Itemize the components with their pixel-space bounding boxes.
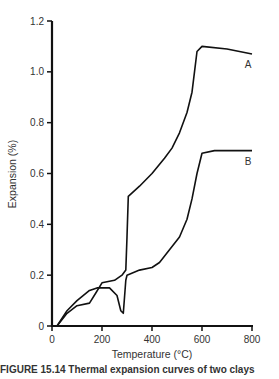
y-tick-label: 1.0 [30, 66, 44, 77]
x-axis: 0200400600800 [49, 326, 261, 345]
y-axis: 00.20.40.60.81.01.2 [30, 16, 52, 332]
x-tick-label: 600 [194, 334, 211, 345]
y-tick-label: 1.2 [30, 16, 44, 27]
x-tick-label: 0 [49, 334, 55, 345]
series-group: AB [57, 46, 252, 326]
y-tick-label: 0 [38, 321, 44, 332]
series-label-b: B [245, 156, 252, 167]
y-tick-label: 0.8 [30, 117, 44, 128]
x-axis-label: Temperature (°C) [112, 348, 193, 360]
x-tick-label: 800 [244, 334, 261, 345]
y-tick-label: 0.6 [30, 168, 44, 179]
y-tick-label: 0.2 [30, 270, 44, 281]
figure-caption: FIGURE 15.14 Thermal expansion curves of… [0, 364, 255, 375]
series-line-b [57, 151, 252, 326]
x-tick-label: 200 [94, 334, 111, 345]
y-tick-label: 0.4 [30, 219, 44, 230]
series-line-a [57, 46, 252, 326]
chart: 00.20.40.60.81.01.2 0200400600800 AB Tem… [0, 0, 279, 379]
series-label-a: A [245, 59, 252, 70]
x-tick-label: 400 [144, 334, 161, 345]
y-axis-label: Expansion (%) [6, 140, 18, 208]
